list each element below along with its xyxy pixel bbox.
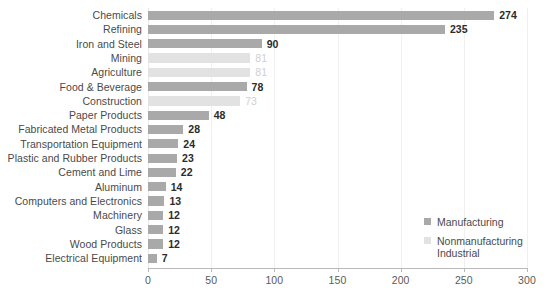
category-label: Computers and Electronics — [0, 194, 142, 208]
tick-mark-50 — [211, 268, 212, 272]
bar[interactable] — [148, 225, 163, 234]
category-label: Cement and Lime — [0, 165, 142, 179]
category-label: Food & Beverage — [0, 80, 142, 94]
legend-swatch-icon-nonmanufacturing — [424, 237, 431, 244]
category-label: Paper Products — [0, 108, 142, 122]
bar-value-label: 81 — [255, 51, 267, 65]
bar-value-label: 78 — [252, 80, 264, 94]
tick-label-0: 0 — [145, 274, 151, 286]
bar-value-label: 48 — [214, 108, 226, 122]
bar[interactable] — [148, 53, 250, 62]
category-label: Iron and Steel — [0, 37, 142, 51]
bar-value-label: 12 — [168, 223, 180, 237]
tick-mark-150 — [338, 268, 339, 272]
tick-label-250: 250 — [455, 274, 473, 286]
category-label: Wood Products — [0, 237, 142, 251]
bar-row: Chemicals274 — [0, 8, 556, 22]
tick-label-50: 50 — [205, 274, 217, 286]
bar-value-label: 13 — [169, 194, 181, 208]
category-label: Electrical Equipment — [0, 251, 142, 265]
bar-row: Food & Beverage78 — [0, 80, 556, 94]
category-label: Chemicals — [0, 8, 142, 22]
bar-value-label: 73 — [245, 94, 257, 108]
category-label: Glass — [0, 223, 142, 237]
category-label: Agriculture — [0, 65, 142, 79]
bar-value-label: 28 — [188, 122, 200, 136]
bar-value-label: 23 — [182, 151, 194, 165]
category-label: Transportation Equipment — [0, 137, 142, 151]
bar-row: Agriculture81 — [0, 65, 556, 79]
legend-entry-manufacturing[interactable]: Manufacturing — [424, 216, 554, 228]
bar[interactable] — [148, 11, 494, 20]
bar-chart: Chemicals274Refining235Iron and Steel90M… — [0, 0, 556, 296]
legend-label-manufacturing: Manufacturing — [437, 216, 504, 228]
bar[interactable] — [148, 125, 183, 134]
bar-value-label: 14 — [171, 180, 183, 194]
bar-value-label: 24 — [183, 137, 195, 151]
bar-row: Iron and Steel90 — [0, 37, 556, 51]
bar[interactable] — [148, 96, 240, 105]
bar-value-label: 22 — [181, 165, 193, 179]
bar-row: Transportation Equipment24 — [0, 137, 556, 151]
tick-label-150: 150 — [329, 274, 347, 286]
bar-value-label: 7 — [162, 251, 168, 265]
bar-row: Plastic and Rubber Products23 — [0, 151, 556, 165]
bar[interactable] — [148, 154, 177, 163]
bar-value-label: 12 — [168, 237, 180, 251]
legend-swatch-icon-manufacturing — [424, 218, 431, 225]
legend-label-nonmanufacturing: Nonmanufacturing Industrial — [437, 235, 523, 259]
bar[interactable] — [148, 182, 166, 191]
bar[interactable] — [148, 111, 209, 120]
bar-row: Construction73 — [0, 94, 556, 108]
bar-row: Fabricated Metal Products28 — [0, 122, 556, 136]
bar-row: Refining235 — [0, 22, 556, 36]
bar[interactable] — [148, 254, 157, 263]
bar[interactable] — [148, 196, 164, 205]
bar[interactable] — [148, 39, 262, 48]
bar[interactable] — [148, 139, 178, 148]
bar[interactable] — [148, 168, 176, 177]
tick-label-300: 300 — [518, 274, 536, 286]
bar-value-label: 90 — [267, 37, 279, 51]
tick-mark-100 — [274, 268, 275, 272]
legend: Manufacturing Nonmanufacturing Industria… — [424, 216, 554, 266]
tick-mark-250 — [464, 268, 465, 272]
bar[interactable] — [148, 25, 445, 34]
bar[interactable] — [148, 68, 250, 77]
tick-mark-0 — [148, 268, 149, 272]
tick-label-200: 200 — [392, 274, 410, 286]
tick-label-100: 100 — [265, 274, 283, 286]
bar-value-label: 81 — [255, 65, 267, 79]
bar-row: Paper Products48 — [0, 108, 556, 122]
tick-mark-200 — [401, 268, 402, 272]
category-label: Plastic and Rubber Products — [0, 151, 142, 165]
bar-row: Computers and Electronics13 — [0, 194, 556, 208]
bar-value-label: 235 — [450, 22, 468, 36]
bar[interactable] — [148, 239, 163, 248]
bar[interactable] — [148, 82, 247, 91]
bar-row: Aluminum14 — [0, 180, 556, 194]
legend-entry-nonmanufacturing[interactable]: Nonmanufacturing Industrial — [424, 235, 554, 259]
category-label: Mining — [0, 51, 142, 65]
bar-value-label: 12 — [168, 208, 180, 222]
bar-row: Mining81 — [0, 51, 556, 65]
category-label: Machinery — [0, 208, 142, 222]
category-label: Fabricated Metal Products — [0, 122, 142, 136]
bar-value-label: 274 — [499, 8, 517, 22]
tick-mark-300 — [527, 268, 528, 272]
bar-row: Cement and Lime22 — [0, 165, 556, 179]
category-label: Refining — [0, 22, 142, 36]
category-label: Construction — [0, 94, 142, 108]
bar[interactable] — [148, 211, 163, 220]
category-label: Aluminum — [0, 180, 142, 194]
